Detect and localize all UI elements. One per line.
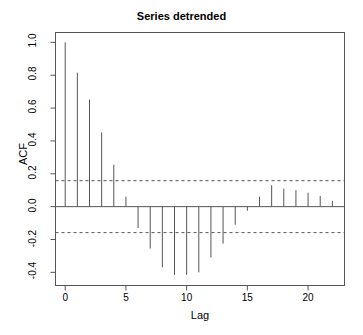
plot-frame [56, 33, 345, 286]
y-tick-label: 0.4 [26, 122, 37, 156]
y-tick-label: -0.2 [26, 221, 37, 255]
x-tick-label: 0 [50, 292, 80, 303]
y-tick-label: -0.4 [26, 254, 37, 288]
x-axis-ticks [65, 286, 308, 291]
acf-bar-series [65, 42, 332, 274]
y-tick-label: 0.2 [26, 155, 37, 189]
x-tick-label: 15 [232, 292, 262, 303]
y-axis-ticks [51, 42, 56, 272]
y-tick-label: 0.8 [26, 57, 37, 91]
y-tick-label: 1.0 [26, 24, 37, 58]
plot-area [0, 0, 363, 335]
x-tick-label: 10 [172, 292, 202, 303]
x-tick-label: 5 [111, 292, 141, 303]
y-tick-label: 0.6 [26, 90, 37, 124]
y-tick-label: 0.0 [26, 188, 37, 222]
x-tick-label: 20 [293, 292, 323, 303]
acf-chart-figure: Series detrended ACF Lag -0.4-0.20.00.20… [0, 0, 363, 335]
